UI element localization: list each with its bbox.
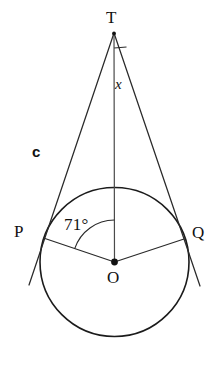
radius-O-to-Q — [115, 239, 186, 263]
label-point-P: P — [14, 223, 23, 240]
label-point-Q: Q — [192, 224, 204, 241]
geometry-figure: T P Q O 71° x c — [0, 0, 223, 367]
apex-point-dot — [112, 32, 116, 36]
label-central-angle: 71° — [64, 216, 89, 233]
segment-T-to-O — [114, 33, 115, 262]
geometry-canvas — [0, 0, 223, 367]
angle-tick-x — [114, 47, 126, 48]
label-point-T: T — [106, 9, 116, 26]
label-part-c: c — [32, 144, 40, 159]
centre-point-dot — [111, 259, 118, 266]
label-point-O: O — [107, 269, 119, 286]
label-unknown-angle-x: x — [115, 77, 122, 92]
radius-O-to-P — [44, 238, 115, 262]
